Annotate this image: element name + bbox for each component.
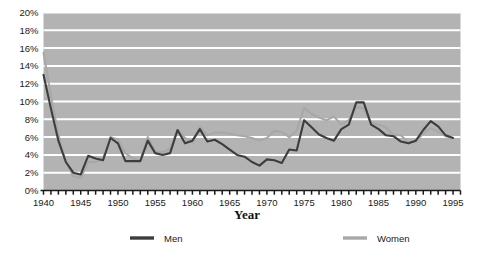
x-tick-label: 1955 bbox=[145, 197, 166, 208]
x-tick-label: 1995 bbox=[442, 197, 463, 208]
y-tick-label: 14% bbox=[19, 60, 39, 71]
y-tick-label: 0% bbox=[25, 185, 39, 196]
x-tick-label: 1990 bbox=[405, 197, 426, 208]
y-tick-label: 10% bbox=[19, 96, 39, 107]
chart-canvas: 0%2%4%6%8%10%12%14%16%18%20% 19401945195… bbox=[0, 0, 495, 255]
x-axis-title: Year bbox=[234, 207, 260, 222]
x-tick-label: 1970 bbox=[256, 197, 277, 208]
x-tick-label: 1965 bbox=[219, 197, 240, 208]
legend-label-women: Women bbox=[377, 233, 410, 244]
y-tick-label: 18% bbox=[19, 25, 39, 36]
y-tick-label: 6% bbox=[25, 132, 39, 143]
x-tick-label: 1960 bbox=[182, 197, 203, 208]
y-tick-label: 2% bbox=[25, 167, 39, 178]
y-tick-label: 12% bbox=[19, 78, 39, 89]
x-tick-label: 1975 bbox=[294, 197, 315, 208]
y-tick-label: 4% bbox=[25, 149, 39, 160]
unemployment-rate-line-chart: 0%2%4%6%8%10%12%14%16%18%20% 19401945195… bbox=[0, 0, 495, 255]
x-tick-label: 1980 bbox=[331, 197, 352, 208]
y-tick-label: 16% bbox=[19, 43, 39, 54]
y-tick-label: 8% bbox=[25, 114, 39, 125]
x-tick-label: 1985 bbox=[368, 197, 389, 208]
legend-label-men: Men bbox=[164, 233, 182, 244]
x-tick-label: 1945 bbox=[70, 197, 91, 208]
y-tick-label: 20% bbox=[19, 7, 39, 18]
x-tick-label: 1940 bbox=[33, 197, 54, 208]
x-tick-label: 1950 bbox=[107, 197, 128, 208]
